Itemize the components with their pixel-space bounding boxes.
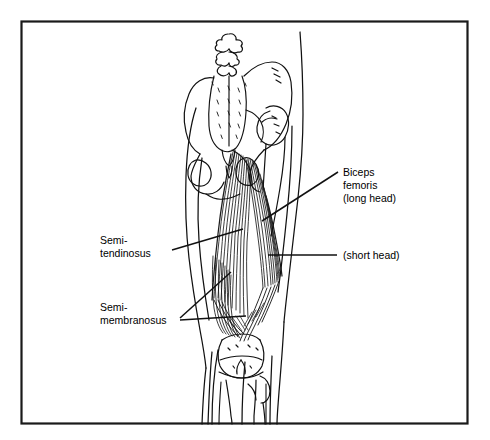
label-semimembranosus-line2: membranosus <box>100 314 167 326</box>
label-biceps-femoris-line1: Biceps <box>343 166 375 178</box>
label-short-head-line1: (short head) <box>343 249 400 261</box>
label-short-head: (short head) <box>343 249 400 261</box>
label-biceps-femoris-line2: femoris <box>343 179 377 191</box>
figure-page: Biceps femoris (long head) (short head) … <box>0 0 490 440</box>
label-biceps-femoris-line3: (long head) <box>343 192 396 204</box>
label-semitendinosus-line1: Semi- <box>100 234 128 246</box>
anatomy-figure: Biceps femoris (long head) (short head) … <box>0 0 490 440</box>
label-semimembranosus-line1: Semi- <box>100 301 128 313</box>
label-semitendinosus-line2: tendinosus <box>100 247 151 259</box>
